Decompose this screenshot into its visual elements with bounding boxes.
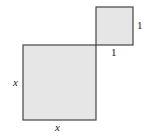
large-square [23, 45, 96, 120]
small-square-bottom-label: 1 [111, 46, 117, 58]
diagram-figure: x x 1 1 [0, 0, 146, 139]
small-square [96, 7, 133, 45]
large-square-left-label: x [12, 76, 18, 88]
small-square-right-label: 1 [137, 19, 143, 31]
large-square-bottom-label: x [54, 121, 60, 133]
